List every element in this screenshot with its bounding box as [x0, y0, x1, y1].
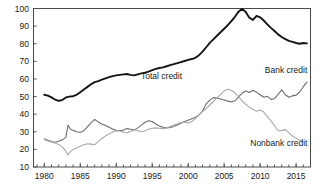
series-line-bank-credit: [44, 82, 307, 142]
series-line-total-credit: [44, 9, 307, 101]
x-tick-label: 2010: [251, 171, 270, 181]
credit-ratios-line-chart: 102030405060708090100 198019851990199520…: [0, 0, 322, 190]
x-axis-major-ticks: [44, 163, 296, 167]
data-series-group: [44, 9, 307, 155]
y-tick-label: 60: [20, 74, 30, 84]
annotation-nonbank-credit: Nonbank credit: [250, 138, 308, 148]
x-tick-label: 2005: [215, 171, 234, 181]
annotation-bank-credit: Bank credit: [265, 65, 308, 75]
series-annotations: Total creditBank creditNonbank credit: [141, 65, 308, 148]
chart-canvas: 102030405060708090100 198019851990199520…: [0, 0, 322, 190]
y-tick-label: 40: [20, 109, 30, 119]
x-tick-label: 2000: [179, 171, 198, 181]
y-tick-label: 100: [15, 4, 29, 14]
x-axis-tick-labels: 19801985199019952000200520102015: [35, 171, 306, 181]
y-tick-label: 50: [20, 92, 30, 102]
y-tick-label: 80: [20, 39, 30, 49]
y-tick-label: 90: [20, 21, 30, 31]
y-tick-label: 70: [20, 56, 30, 66]
x-tick-label: 1980: [35, 171, 54, 181]
x-tick-label: 1990: [107, 171, 126, 181]
x-tick-label: 2015: [287, 171, 306, 181]
x-tick-label: 1985: [71, 171, 90, 181]
y-tick-label: 10: [20, 162, 30, 172]
y-tick-label: 20: [20, 144, 30, 154]
y-tick-label: 30: [20, 127, 30, 137]
annotation-total-credit: Total credit: [141, 71, 183, 81]
x-tick-label: 1995: [143, 171, 162, 181]
y-axis-tick-labels: 102030405060708090100: [15, 4, 29, 173]
